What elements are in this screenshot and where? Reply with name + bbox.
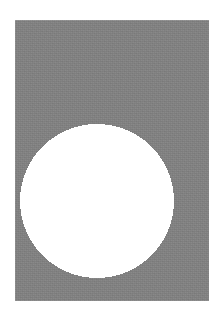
white-circle-path bbox=[20, 124, 174, 278]
white-circle-shape bbox=[0, 0, 224, 316]
image-canvas: Abstract geometric composition bbox=[0, 0, 224, 316]
